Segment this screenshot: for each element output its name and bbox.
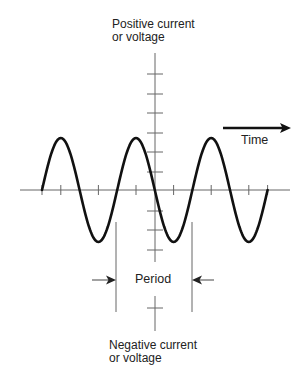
time-arrow [223, 123, 291, 133]
negative-label-line2: or voltage [109, 352, 197, 365]
period-arrow-left [92, 276, 116, 285]
sine-wave-diagram [0, 0, 304, 378]
period-label: Period [135, 273, 171, 286]
negative-axis-label: Negative current or voltage [109, 339, 197, 365]
positive-label-line2: or voltage [112, 31, 195, 44]
period-arrow-right [192, 276, 214, 285]
positive-axis-label: Positive current or voltage [112, 18, 195, 44]
time-label: Time [241, 134, 268, 147]
